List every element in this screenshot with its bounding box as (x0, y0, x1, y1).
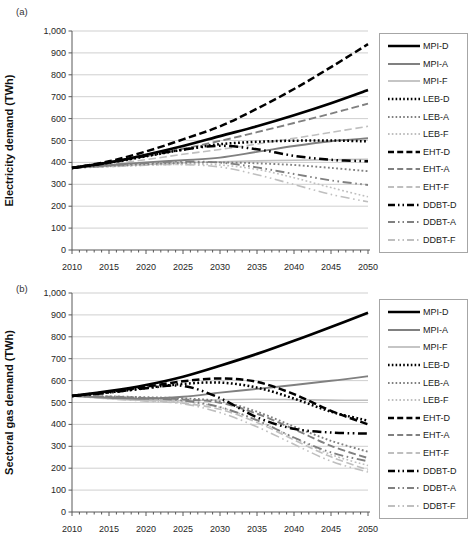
legend-line-sample-MPI-F (387, 343, 421, 351)
legend-label-MPI-F: MPI-F (423, 76, 448, 86)
legend-label-EHT-A: EHT-A (423, 430, 450, 440)
legend-label-DDBT-D: DDBT-D (423, 200, 457, 210)
svg-text:900: 900 (51, 48, 66, 58)
legend-label-EHT-D: EHT-D (423, 413, 450, 423)
legend-line-sample-DDBT-A (387, 218, 421, 226)
legend-line-sample-MPI-D (387, 308, 421, 316)
legend-line-sample-EHT-D (387, 414, 421, 422)
svg-text:2020: 2020 (136, 524, 156, 534)
svg-text:2015: 2015 (99, 262, 119, 272)
legend-label-MPI-F: MPI-F (423, 342, 448, 352)
legend-item-DDBT-D: DDBT-D (387, 199, 465, 211)
svg-text:(b): (b) (16, 283, 28, 294)
svg-text:400: 400 (51, 419, 66, 429)
svg-text:2015: 2015 (99, 524, 119, 534)
legend-item-MPI-D: MPI-D (387, 40, 465, 52)
legend-line-sample-DDBT-A (387, 484, 421, 492)
svg-text:Electricity demand (TWh): Electricity demand (TWh) (3, 74, 15, 206)
svg-text:300: 300 (51, 441, 66, 451)
legend-item-DDBT-F: DDBT-F (387, 234, 465, 246)
svg-text:200: 200 (51, 463, 66, 473)
legend-label-EHT-F: EHT-F (423, 448, 449, 458)
legend-label-DDBT-F: DDBT-F (423, 501, 456, 511)
legend-item-MPI-A: MPI-A (387, 324, 465, 336)
legend-label-DDBT-F: DDBT-F (423, 235, 456, 245)
svg-text:800: 800 (51, 332, 66, 342)
svg-text:2050: 2050 (358, 524, 378, 534)
legend-line-sample-DDBT-D (387, 201, 421, 209)
legend-label-MPI-D: MPI-D (423, 41, 449, 51)
legend-item-EHT-A: EHT-A (387, 163, 465, 175)
legend-label-EHT-D: EHT-D (423, 147, 450, 157)
legend-item-MPI-A: MPI-A (387, 58, 465, 70)
svg-text:2040: 2040 (284, 524, 304, 534)
legend-item-DDBT-F: DDBT-F (387, 500, 465, 512)
legend-line-sample-MPI-F (387, 77, 421, 85)
legend-line-sample-EHT-A (387, 431, 421, 439)
svg-text:2030: 2030 (210, 524, 230, 534)
legend-label-LEB-F: LEB-F (423, 395, 449, 405)
svg-text:600: 600 (51, 376, 66, 386)
legend-item-EHT-F: EHT-F (387, 447, 465, 459)
svg-text:2020: 2020 (136, 262, 156, 272)
figure: 01002003004005006007008009001,0002010201… (0, 0, 475, 542)
legend-item-LEB-A: LEB-A (387, 111, 465, 123)
svg-text:2045: 2045 (321, 262, 341, 272)
legend-label-DDBT-A: DDBT-A (423, 483, 456, 493)
legend-item-LEB-D: LEB-D (387, 93, 465, 105)
legend-item-LEB-F: LEB-F (387, 128, 465, 140)
legend-item-MPI-F: MPI-F (387, 75, 465, 87)
legend-line-sample-LEB-F (387, 396, 421, 404)
legend-label-LEB-A: LEB-A (423, 112, 449, 122)
svg-text:300: 300 (51, 179, 66, 189)
legend-label-LEB-A: LEB-A (423, 378, 449, 388)
svg-text:2025: 2025 (173, 262, 193, 272)
legend-line-sample-LEB-A (387, 379, 421, 387)
legend-item-LEB-D: LEB-D (387, 359, 465, 371)
legend-line-sample-LEB-F (387, 130, 421, 138)
legend-item-EHT-D: EHT-D (387, 146, 465, 158)
panel-a: 01002003004005006007008009001,0002010201… (3, 6, 378, 272)
svg-text:2040: 2040 (284, 262, 304, 272)
svg-text:2025: 2025 (173, 524, 193, 534)
svg-text:2050: 2050 (358, 262, 378, 272)
svg-text:2030: 2030 (210, 262, 230, 272)
legend-line-sample-EHT-F (387, 449, 421, 457)
legend-item-EHT-F: EHT-F (387, 181, 465, 193)
legend-line-sample-MPI-D (387, 42, 421, 50)
panel-b: 01002003004005006007008009001,0002010201… (3, 283, 378, 534)
svg-text:900: 900 (51, 310, 66, 320)
svg-text:1,000: 1,000 (43, 288, 66, 298)
series-line-MPI-D (72, 90, 368, 168)
legend-line-sample-DDBT-F (387, 236, 421, 244)
svg-text:600: 600 (51, 114, 66, 124)
legend-label-DDBT-D: DDBT-D (423, 466, 457, 476)
legend-line-sample-DDBT-D (387, 467, 421, 475)
legend-line-sample-EHT-F (387, 183, 421, 191)
legend-item-MPI-D: MPI-D (387, 306, 465, 318)
legend-label-DDBT-A: DDBT-A (423, 217, 456, 227)
svg-text:(a): (a) (16, 6, 28, 17)
svg-text:100: 100 (51, 223, 66, 233)
svg-text:500: 500 (51, 136, 66, 146)
legend-label-MPI-D: MPI-D (423, 307, 449, 317)
legend-label-EHT-F: EHT-F (423, 182, 449, 192)
legend-item-MPI-F: MPI-F (387, 341, 465, 353)
legend-line-sample-EHT-A (387, 165, 421, 173)
legend-label-LEB-D: LEB-D (423, 94, 450, 104)
svg-text:800: 800 (51, 70, 66, 80)
svg-text:400: 400 (51, 157, 66, 167)
svg-text:700: 700 (51, 92, 66, 102)
legend-item-EHT-D: EHT-D (387, 412, 465, 424)
legend-line-sample-MPI-A (387, 326, 421, 334)
legend-item-DDBT-D: DDBT-D (387, 465, 465, 477)
legend-line-sample-DDBT-F (387, 502, 421, 510)
legend-label-MPI-A: MPI-A (423, 59, 448, 69)
legend-label-LEB-D: LEB-D (423, 360, 450, 370)
legend-line-sample-LEB-D (387, 95, 421, 103)
series-line-EHT-A (72, 396, 368, 458)
legend-item-LEB-F: LEB-F (387, 394, 465, 406)
series-line-DDBT-F (72, 165, 368, 202)
legend-item-DDBT-A: DDBT-A (387, 482, 465, 494)
svg-text:2010: 2010 (62, 524, 82, 534)
